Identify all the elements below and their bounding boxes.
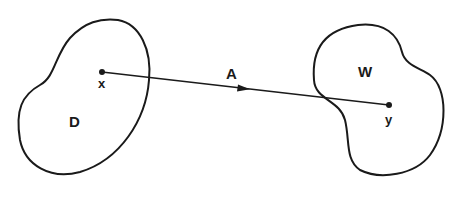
point-x-label: x [98, 76, 106, 91]
region-w-label: W [358, 63, 373, 80]
region-w-outline [314, 25, 444, 175]
region-d-label: D [69, 113, 80, 130]
region-d-outline [18, 20, 149, 175]
diagram-canvas: x y D W A [0, 0, 460, 197]
path-a-label: A [226, 65, 237, 82]
point-y-label: y [385, 112, 393, 127]
point-x-dot [99, 69, 105, 75]
point-y-dot [386, 102, 392, 108]
